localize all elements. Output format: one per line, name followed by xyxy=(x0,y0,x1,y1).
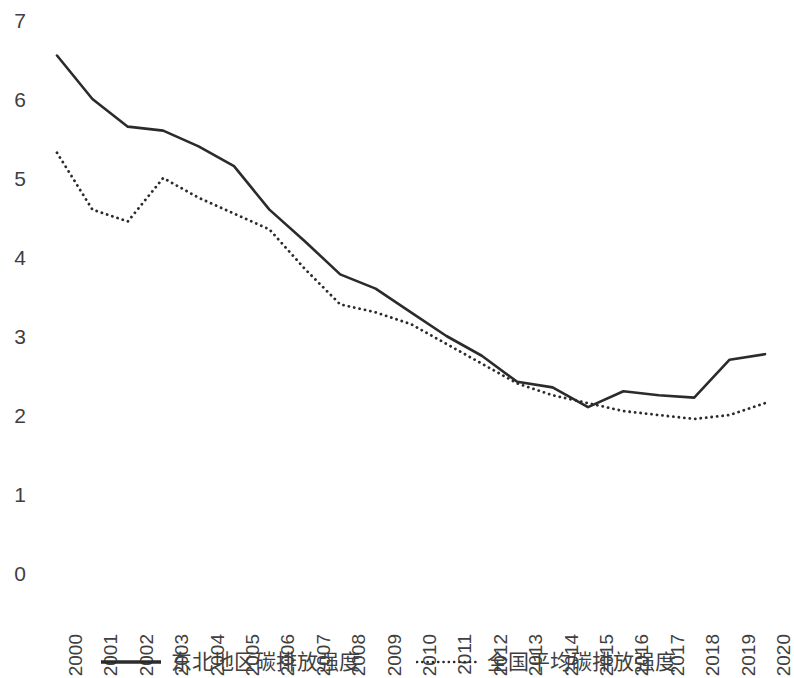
chart-legend: 东北地区碳排放强度 全国平均碳排放强度 xyxy=(0,646,776,678)
x-axis-tick-label: 2020 xyxy=(774,634,793,676)
legend-label-national: 全国平均碳排放强度 xyxy=(487,651,676,674)
series-line-northeast xyxy=(57,56,765,408)
series-line-national xyxy=(57,153,765,419)
dotted-line-swatch-icon xyxy=(416,655,478,669)
x-axis: 2000200120022003200420052006200720082009… xyxy=(0,578,776,640)
solid-line-swatch-icon xyxy=(100,655,162,669)
legend-label-northeast: 东北地区碳排放强度 xyxy=(171,651,360,674)
plot-area xyxy=(0,0,776,600)
legend-item-northeast: 东北地区碳排放强度 xyxy=(100,651,360,674)
plot-svg xyxy=(0,0,776,600)
legend-item-national: 全国平均碳排放强度 xyxy=(416,651,676,674)
